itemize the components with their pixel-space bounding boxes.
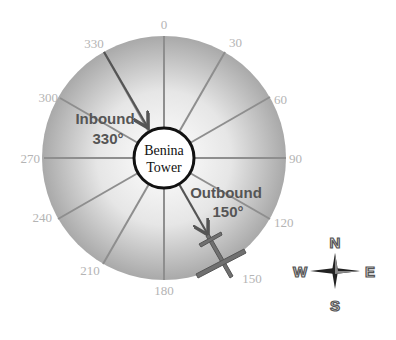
tick-270: 270 [21,151,41,166]
compass-e: E [365,263,375,280]
tick-30: 30 [229,35,242,50]
tick-90: 90 [289,151,302,166]
tower-circle [134,128,194,188]
tick-60: 60 [274,92,287,107]
compass-w: W [293,263,308,280]
compass-n: N [330,234,341,251]
inbound-label: Inbound [75,110,134,127]
tick-0: 0 [161,17,168,32]
tick-120: 120 [274,215,294,230]
compass-s: S [330,297,340,314]
tick-210: 210 [80,263,100,278]
tick-300: 300 [39,90,59,105]
tower-label-line2: Tower [146,160,182,175]
tick-180: 180 [154,283,174,298]
outbound-label: Outbound [190,184,262,201]
tick-240: 240 [33,210,53,225]
compass-rose-icon: N E S W [293,234,375,314]
tick-150: 150 [242,271,262,286]
tick-330: 330 [84,36,104,51]
inbound-heading: 330° [92,130,123,147]
radial-diagram: Benina Tower 0 30 60 90 120 150 180 210 … [0,0,396,340]
outbound-heading: 150° [212,203,243,220]
tower-label-line1: Benina [144,143,184,158]
